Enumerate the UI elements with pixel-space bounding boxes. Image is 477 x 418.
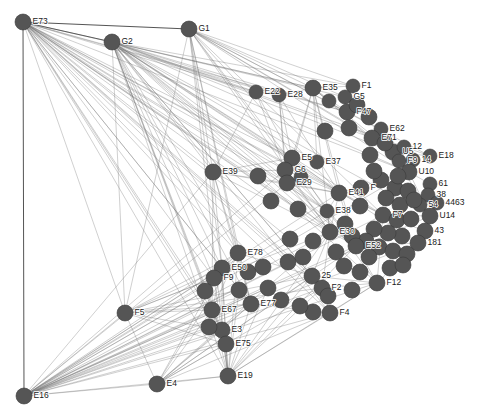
graph-node[interactable] — [16, 388, 32, 404]
graph-node[interactable] — [390, 168, 406, 184]
graph-edge — [24, 172, 213, 396]
graph-node-label: E3 — [232, 324, 243, 334]
graph-node[interactable] — [362, 147, 378, 163]
graph-node[interactable] — [422, 208, 438, 224]
graph-node-label: U14 — [440, 210, 456, 220]
graph-node[interactable] — [295, 249, 311, 265]
graph-node[interactable] — [322, 224, 338, 240]
graph-node[interactable] — [366, 163, 382, 179]
graph-node[interactable] — [380, 225, 396, 241]
graph-node[interactable] — [260, 280, 276, 296]
graph-node[interactable] — [250, 168, 266, 184]
graph-node[interactable] — [395, 257, 411, 273]
graph-edge — [112, 42, 238, 253]
graph-node-label: E39 — [223, 166, 238, 176]
graph-node[interactable] — [204, 302, 220, 318]
graph-node-label: E29 — [297, 177, 312, 187]
graph-node[interactable] — [369, 275, 385, 291]
graph-node-label: E52 — [366, 240, 381, 250]
graph-node[interactable] — [331, 185, 347, 201]
graph-node-label: U10 — [419, 166, 435, 176]
graph-node[interactable] — [322, 305, 338, 321]
graph-node[interactable] — [104, 34, 120, 50]
graph-node[interactable] — [310, 155, 324, 169]
graph-node[interactable] — [197, 283, 213, 299]
graph-node-label: 25 — [322, 270, 332, 280]
graph-node-label: 54 — [429, 199, 439, 209]
graph-node-label: F2 — [332, 282, 342, 292]
graph-node-label: F1 — [362, 80, 372, 90]
graph-node[interactable] — [255, 259, 271, 275]
graph-edge — [24, 304, 251, 396]
graph-edge — [23, 22, 383, 215]
graph-node-label: F12 — [387, 277, 402, 287]
graph-node[interactable] — [279, 175, 295, 191]
graph-node[interactable] — [344, 282, 360, 298]
graph-node-label: F4 — [340, 307, 350, 317]
graph-node[interactable] — [305, 233, 321, 249]
graph-node[interactable] — [243, 296, 259, 312]
graph-node-label: E35 — [323, 82, 338, 92]
graph-node[interactable] — [385, 243, 401, 259]
graph-node[interactable] — [322, 94, 336, 108]
graph-node-label: E50 — [232, 262, 247, 272]
graph-node-label: E37 — [326, 156, 341, 166]
graph-node-label: F — [371, 182, 376, 192]
graph-node[interactable] — [375, 207, 391, 223]
graph-node[interactable] — [361, 249, 377, 265]
graph-node-label: 181 — [428, 237, 442, 247]
graph-edge — [24, 246, 356, 396]
graph-node[interactable] — [220, 368, 236, 384]
graph-node[interactable] — [218, 336, 234, 352]
graph-node[interactable] — [394, 228, 410, 244]
graph-node[interactable] — [205, 164, 221, 180]
graph-node-label: 61 — [439, 178, 449, 188]
graph-node[interactable] — [341, 120, 357, 136]
graph-node[interactable] — [317, 123, 333, 139]
graph-node-label: E16 — [34, 390, 49, 400]
graph-node[interactable] — [292, 298, 308, 314]
graph-node[interactable] — [290, 201, 306, 217]
graph-node[interactable] — [320, 204, 334, 218]
graph-edge — [23, 22, 322, 288]
graph-node[interactable] — [352, 198, 368, 214]
graph-node[interactable] — [201, 319, 217, 335]
graph-node[interactable] — [352, 264, 368, 280]
graph-edge — [23, 22, 24, 396]
graph-node[interactable] — [181, 21, 197, 37]
graph-node[interactable] — [282, 231, 298, 247]
graph-edge — [112, 42, 125, 313]
graph-node-label: E18 — [439, 150, 454, 160]
graph-node-label: E5 — [302, 152, 313, 162]
graph-node[interactable] — [336, 258, 352, 274]
graph-node[interactable] — [348, 238, 364, 254]
graph-node[interactable] — [117, 305, 133, 321]
graph-node[interactable] — [263, 193, 279, 209]
graph-node[interactable] — [149, 376, 165, 392]
graph-node[interactable] — [406, 192, 422, 208]
graph-node[interactable] — [280, 254, 296, 270]
graph-node[interactable] — [249, 85, 263, 99]
graph-node-label: 12 — [413, 141, 423, 151]
graph-edge — [23, 22, 312, 276]
graph-node[interactable] — [230, 245, 246, 261]
graph-node-label: F9 — [224, 272, 234, 282]
graph-edge — [23, 22, 356, 246]
graph-edge — [189, 29, 313, 88]
graph-node-label: F7 — [393, 209, 403, 219]
graph-node-label: F9 — [408, 155, 418, 165]
graph-node-label: 14 — [422, 154, 432, 164]
graph-node[interactable] — [403, 211, 419, 227]
graph-node[interactable] — [378, 190, 394, 206]
graph-node-label: E41 — [349, 187, 364, 197]
graph-edge — [112, 42, 347, 112]
graph-node-label: E78 — [248, 247, 263, 257]
graph-node-label: E38 — [336, 205, 351, 215]
graph-node[interactable] — [305, 80, 321, 96]
graph-edge — [112, 42, 222, 268]
graph-node-label: G5 — [354, 91, 366, 101]
graph-node-label: E19 — [238, 370, 253, 380]
graph-node[interactable] — [231, 282, 247, 298]
graph-node[interactable] — [328, 244, 344, 260]
graph-node[interactable] — [15, 14, 31, 30]
